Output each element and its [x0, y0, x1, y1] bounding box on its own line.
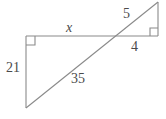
diagram-canvas [0, 0, 166, 119]
segment-diagonal-transversal [26, 2, 158, 108]
label-hypotenuse-35: 35 [71, 72, 85, 86]
right-angle-mark-top-right [150, 28, 158, 36]
label-side-21: 21 [6, 61, 20, 75]
geometry-figure: 21 x 35 5 4 [0, 0, 166, 119]
label-side-4: 4 [131, 40, 138, 54]
label-hypotenuse-5: 5 [123, 7, 130, 21]
label-side-x: x [66, 21, 72, 35]
right-angle-mark-top-left [26, 36, 35, 45]
